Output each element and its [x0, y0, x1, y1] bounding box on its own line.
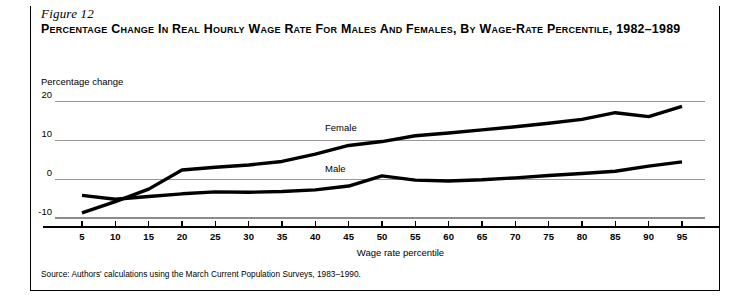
series-line-male [82, 162, 682, 199]
x-tick-label-90: 90 [637, 232, 661, 242]
x-tick-label-60: 60 [437, 232, 461, 242]
x-tick-label-85: 85 [603, 232, 627, 242]
x-tick-label-75: 75 [537, 232, 561, 242]
x-tick-label-80: 80 [570, 232, 594, 242]
x-tick-label-45: 45 [337, 232, 361, 242]
series-label-female: Female [325, 123, 357, 133]
y-tick-label-20: 20 [26, 90, 52, 100]
x-tick-label-55: 55 [403, 232, 427, 242]
y-tick-label--10: -10 [26, 207, 52, 217]
series-label-male: Male [325, 164, 346, 174]
x-tick-label-20: 20 [170, 232, 194, 242]
series-line-female [82, 106, 682, 212]
x-axis-title-text: Wage rate percentile [357, 247, 444, 258]
source-note: Source: Authors' calculations using the … [41, 269, 361, 279]
x-tick-label-70: 70 [503, 232, 527, 242]
figure-container: Figure 12 Percentage Change in Real Hour… [0, 0, 751, 298]
x-tick-label-30: 30 [237, 232, 261, 242]
x-tick-label-50: 50 [370, 232, 394, 242]
y-tick-label-0: 0 [26, 168, 52, 178]
x-tick-label-35: 35 [270, 232, 294, 242]
x-tick-label-25: 25 [203, 232, 227, 242]
x-tick-label-65: 65 [470, 232, 494, 242]
x-axis-title: Wage rate percentile [0, 247, 751, 258]
x-tick-label-5: 5 [70, 232, 94, 242]
x-tick-label-40: 40 [303, 232, 327, 242]
x-tick-label-95: 95 [670, 232, 694, 242]
x-tick-label-15: 15 [137, 232, 161, 242]
x-tick-label-10: 10 [103, 232, 127, 242]
y-tick-label-10: 10 [26, 129, 52, 139]
